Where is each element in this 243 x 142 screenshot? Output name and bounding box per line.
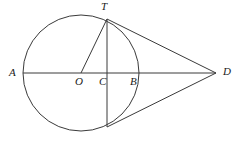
point-label-T: T (101, 1, 107, 12)
segment-tangent-TD (107, 19, 216, 73)
geometry-figure: A O C B T D (0, 0, 243, 142)
point-label-A: A (9, 67, 16, 78)
geometry-canvas (0, 0, 243, 142)
segment-tangent-Tprime-D (107, 73, 216, 127)
point-label-C: C (99, 76, 106, 87)
point-label-B: B (130, 76, 137, 87)
segment-radius-OT (81, 19, 107, 73)
point-label-D: D (223, 66, 231, 77)
point-label-O: O (75, 76, 83, 87)
